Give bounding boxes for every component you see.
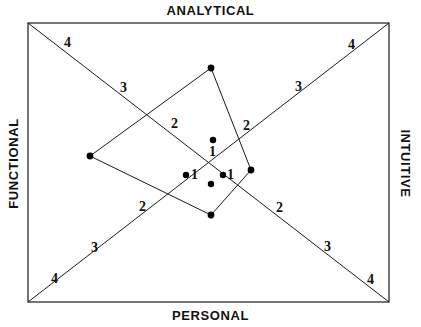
ring-label-4: 4 [348, 38, 355, 52]
diagram-canvas: ANALYTICAL PERSONAL FUNCTIONAL INTUITIVE… [0, 0, 421, 327]
ring-label-1: 1 [227, 168, 234, 182]
data-point [208, 65, 215, 72]
data-point [248, 167, 255, 174]
ring-label-1: 1 [191, 168, 198, 182]
data-point [208, 212, 215, 219]
ring-label-2: 2 [171, 117, 178, 131]
ring-label-3: 3 [324, 240, 331, 254]
ring-label-1: 1 [209, 145, 216, 159]
ring-label-2: 2 [276, 201, 283, 215]
axis-label-personal: PERSONAL [0, 308, 421, 323]
ring-label-2: 2 [139, 200, 146, 214]
data-point [208, 181, 214, 187]
axis-label-analytical: ANALYTICAL [0, 3, 421, 18]
ring-label-2: 2 [243, 119, 250, 133]
data-point [210, 137, 216, 143]
axis-label-functional: FUNCTIONAL [6, 104, 21, 224]
ring-label-3: 3 [295, 80, 302, 94]
ring-label-3: 3 [120, 81, 127, 95]
data-point [220, 172, 226, 178]
axis-label-intuitive: INTUITIVE [398, 104, 413, 224]
ring-label-4: 4 [64, 36, 71, 50]
ring-label-4: 4 [51, 272, 58, 286]
data-point [87, 153, 94, 160]
ring-label-3: 3 [91, 241, 98, 255]
ring-label-4: 4 [367, 273, 374, 287]
data-point [183, 172, 189, 178]
